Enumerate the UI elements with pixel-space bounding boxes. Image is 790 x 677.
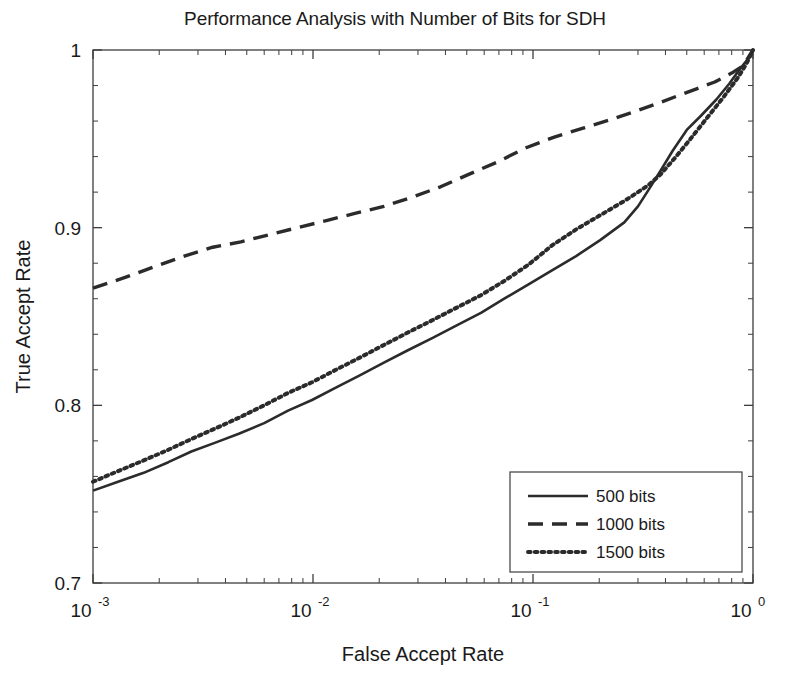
x-tick-label: 100	[730, 594, 765, 621]
figure: Performance Analysis with Number of Bits…	[0, 0, 790, 677]
legend-label-1000-bits: 1000 bits	[596, 515, 665, 534]
svg-text:10: 10	[70, 600, 91, 621]
x-tick-label: 10-1	[510, 594, 549, 621]
svg-text:-1: -1	[538, 594, 550, 609]
y-tick-label: 1	[70, 40, 81, 61]
legend-label-500-bits: 500 bits	[596, 487, 656, 506]
svg-text:10: 10	[290, 600, 311, 621]
legend: 500 bits1000 bits1500 bits	[510, 472, 742, 572]
x-tick-label: 10-2	[290, 594, 329, 621]
y-tick-label: 0.9	[55, 218, 81, 239]
legend-label-1500-bits: 1500 bits	[596, 543, 665, 562]
x-axis-title: False Accept Rate	[342, 643, 504, 665]
series-line-1500-bits	[93, 50, 753, 482]
svg-text:-2: -2	[318, 594, 330, 609]
series-layer	[93, 50, 753, 491]
x-tick-label: 10-3	[70, 594, 109, 621]
svg-text:10: 10	[730, 600, 751, 621]
svg-text:-3: -3	[98, 594, 110, 609]
series-line-1000-bits	[93, 50, 753, 288]
y-axis-title: True Accept Rate	[12, 240, 34, 394]
y-tick-label: 0.8	[55, 395, 81, 416]
roc-plot: 0.70.80.9110-310-210-1100 False Accept R…	[0, 0, 790, 677]
series-line-500-bits	[93, 50, 753, 491]
y-tick-label: 0.7	[55, 573, 81, 594]
svg-text:10: 10	[510, 600, 531, 621]
svg-text:0: 0	[758, 594, 765, 609]
